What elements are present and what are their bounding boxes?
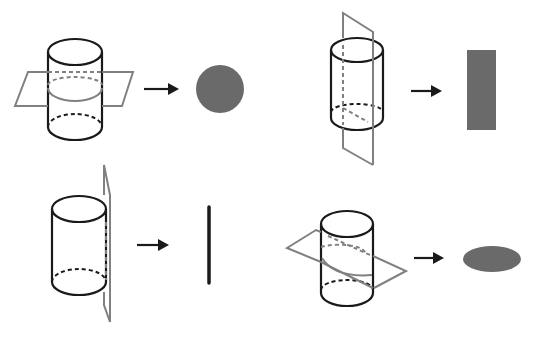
result-ellipse: [463, 246, 521, 272]
panel-vertical-cut: [331, 13, 496, 165]
horizontal-plane: [15, 72, 133, 106]
arrow-2: [411, 85, 442, 97]
cylinder-3: [52, 196, 106, 295]
panel-horizontal-cut: [15, 39, 244, 140]
cylinder-4: [321, 211, 373, 306]
panel-tangent-cut: [52, 165, 209, 322]
result-circle: [196, 65, 244, 113]
cylinder-cross-sections-diagram: [0, 0, 534, 341]
arrow-3: [137, 239, 169, 251]
cylinder-1: [48, 39, 102, 140]
arrow-1: [144, 83, 179, 95]
panel-slanted-cut: [287, 211, 521, 306]
vertical-plane: [343, 13, 373, 165]
result-rectangle: [467, 50, 496, 130]
arrow-4: [414, 252, 444, 264]
